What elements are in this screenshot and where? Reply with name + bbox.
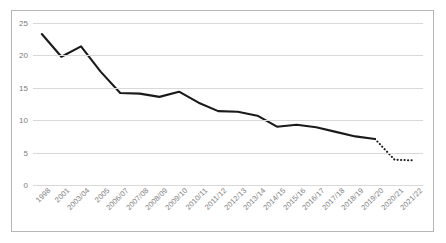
gridline [33, 23, 423, 24]
line-series [33, 23, 423, 185]
plot-area [33, 23, 423, 185]
series-solid-segment [42, 34, 375, 139]
x-axis-tick-label: 1998 [34, 186, 52, 204]
gridline [33, 120, 423, 121]
chart-figure: 0510152025 199820012003/0420052006/07200… [0, 0, 446, 243]
y-axis-tick-label: 25 [19, 19, 28, 28]
y-axis-tick-label: 20 [19, 51, 28, 60]
y-axis-tick-label: 0 [23, 181, 28, 190]
y-axis-tick-label: 10 [19, 116, 28, 125]
y-axis-tick-label: 5 [23, 148, 28, 157]
y-axis-tick-label: 15 [19, 83, 28, 92]
gridline [33, 55, 423, 56]
y-axis-tick-labels: 0510152025 [11, 23, 28, 185]
gridline [33, 153, 423, 154]
series-dotted-segment [375, 139, 414, 160]
x-axis-tick-labels: 199820012003/0420052006/072007/082008/09… [33, 186, 423, 232]
gridline [33, 88, 423, 89]
